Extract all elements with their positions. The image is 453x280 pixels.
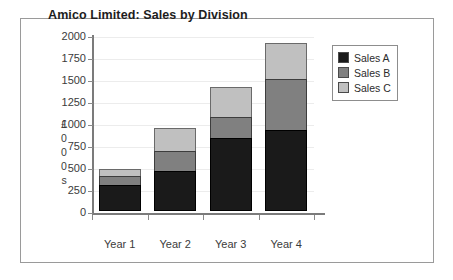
bar-segment-sales-c[interactable]: [154, 128, 196, 152]
y-axis-label-char: 0: [58, 159, 70, 173]
y-axis-tick-label: 250: [68, 184, 86, 196]
bar-segment-sales-b[interactable]: [210, 117, 252, 139]
bar-segment-sales-c[interactable]: [210, 87, 252, 118]
x-axis-tick-mark: [148, 215, 149, 220]
bar-group[interactable]: [154, 37, 196, 213]
legend-label: Sales B: [354, 67, 390, 79]
x-axis-tick-mark: [92, 215, 93, 220]
y-axis-label-char: £: [58, 117, 70, 131]
chart-legend: Sales ASales BSales C: [332, 45, 398, 101]
x-axis-line: [92, 213, 325, 215]
x-axis-category-label: Year 2: [148, 238, 204, 250]
legend-label: Sales A: [354, 52, 390, 64]
legend-swatch-icon: [338, 82, 349, 93]
y-axis-tick-label: 750: [68, 140, 86, 152]
bar-segment-sales-b[interactable]: [265, 79, 307, 131]
y-axis-label-char: 0: [58, 145, 70, 159]
stacked-bar[interactable]: [154, 128, 196, 213]
x-axis-tick-mark: [314, 215, 315, 220]
y-axis-tick-label: 0: [80, 206, 86, 218]
legend-label: Sales C: [354, 82, 391, 94]
y-axis-label-char: 0: [58, 131, 70, 145]
legend-item[interactable]: Sales C: [338, 80, 391, 95]
y-axis-tick-label: 2000: [62, 30, 86, 42]
y-axis-tick-label: 1250: [62, 96, 86, 108]
legend-swatch-icon: [338, 67, 349, 78]
legend-item[interactable]: Sales B: [338, 65, 391, 80]
bar-group[interactable]: [265, 37, 307, 213]
x-axis-tick-mark: [259, 215, 260, 220]
bar-segment-sales-a[interactable]: [154, 171, 196, 211]
y-axis-tick-label: 500: [68, 162, 86, 174]
bar-segment-sales-c[interactable]: [265, 43, 307, 80]
legend-swatch-icon: [338, 52, 349, 63]
x-axis-tick-mark: [203, 215, 204, 220]
bar-group[interactable]: [99, 37, 141, 213]
y-axis-tick-label: 1500: [62, 74, 86, 86]
bar-segment-sales-b[interactable]: [154, 151, 196, 172]
legend-item[interactable]: Sales A: [338, 50, 391, 65]
bar-segment-sales-a[interactable]: [99, 185, 141, 211]
y-axis-label-char: s: [58, 173, 70, 187]
plot-area: [92, 37, 314, 213]
bar-segment-sales-a[interactable]: [210, 138, 252, 211]
y-axis-tick-label: 1750: [62, 52, 86, 64]
y-axis-label: £000s: [58, 117, 70, 187]
x-axis-category-label: Year 3: [203, 238, 259, 250]
bar-group[interactable]: [210, 37, 252, 213]
bar-segment-sales-a[interactable]: [265, 130, 307, 211]
chart-screenshot: Amico Limited: Sales by Division 2000175…: [0, 0, 453, 280]
x-axis-category-label: Year 4: [259, 238, 315, 250]
stacked-bar[interactable]: [99, 169, 141, 213]
x-axis-category-label: Year 1: [92, 238, 148, 250]
y-axis-tick-mark: [88, 213, 93, 214]
stacked-bar[interactable]: [265, 43, 307, 213]
stacked-bar[interactable]: [210, 87, 252, 213]
